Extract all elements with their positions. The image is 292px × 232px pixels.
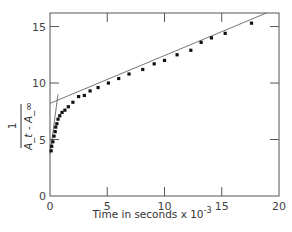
data-point (96, 86, 99, 89)
data-point (50, 145, 53, 148)
fit-lines (50, 13, 266, 154)
x-axis-title-exponent: -3 (204, 206, 212, 215)
data-point (77, 95, 80, 98)
y-tick-label: 0 (39, 190, 46, 203)
y-axis-title: 1 A_t - A_∞ (6, 102, 35, 151)
y-tick-label: 15 (32, 21, 46, 34)
x-axis-title: Time in seconds x 10-3 (91, 206, 211, 220)
data-point (210, 36, 213, 39)
data-point (250, 22, 253, 25)
data-point (54, 125, 57, 128)
data-point (163, 59, 166, 62)
data-point (107, 81, 110, 84)
plot-border (50, 13, 279, 196)
x-axis-title-main: Time in seconds x 10 (91, 208, 203, 220)
data-point (58, 114, 61, 117)
x-tick-label: 20 (272, 200, 286, 213)
axis-ticks (50, 13, 279, 196)
y-tick-label: 5 (39, 134, 46, 147)
chart: 05101520 051015 Time in seconds x 10-3 1… (0, 0, 292, 232)
data-point (52, 135, 55, 138)
data-point (60, 111, 63, 114)
data-point (189, 49, 192, 52)
y-axis-title-numerator: 1 (6, 123, 18, 130)
x-tick-label: 0 (47, 200, 54, 213)
data-point (117, 77, 120, 80)
data-point (141, 68, 144, 71)
y-tick-label: 10 (32, 77, 46, 90)
data-point (63, 109, 66, 112)
data-point (56, 118, 59, 121)
data-point (54, 130, 57, 133)
data-point (50, 149, 53, 152)
y-axis-title-denominator: A_t - A_∞ (22, 102, 35, 151)
data-point (153, 62, 156, 65)
slow-phase-fit-line (50, 13, 266, 103)
data-point (224, 32, 227, 35)
data-point (51, 140, 54, 143)
data-points (50, 22, 254, 153)
y-tick-labels: 051015 (32, 21, 46, 203)
data-point (175, 53, 178, 56)
data-point (83, 94, 86, 97)
x-tick-label: 15 (215, 200, 229, 213)
data-point (55, 122, 58, 125)
data-point (71, 101, 74, 104)
data-point (67, 105, 70, 108)
plot-frame (50, 13, 279, 196)
data-point (88, 89, 91, 92)
data-point (200, 41, 203, 44)
data-point (127, 72, 130, 75)
